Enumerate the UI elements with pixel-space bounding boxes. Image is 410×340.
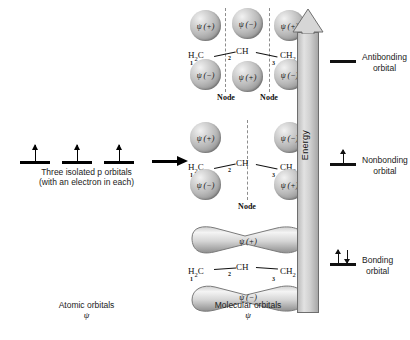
level-label-line1: Bonding	[362, 255, 393, 265]
electron-up-arrow	[338, 250, 339, 263]
skeleton-atom-2: CH	[236, 46, 249, 56]
molecular-orbitals-footer-symbol: ψ	[190, 310, 306, 320]
energy-axis-arrow: Energy	[292, 8, 324, 313]
carbon-skeleton: H2C 1 CH 2 CH2 3	[188, 262, 308, 282]
electron-up-arrow	[35, 145, 36, 161]
level-label-line1: Nonbonding	[362, 155, 408, 165]
level-line	[330, 163, 356, 166]
orbital-lobe-top-continuous: ψ (+)	[189, 224, 307, 258]
orbital-lobe-c1-bottom: ψ (−)	[190, 169, 221, 200]
nonbonding-orbital-diagram: ψ (+) ψ (−) H2C 1 CH 2 CH2 3 ψ (−) ψ (+)…	[188, 120, 308, 215]
bond-c2-c3	[256, 52, 278, 58]
atomic-orbitals-group: Three isolated p orbitals (with an elect…	[14, 138, 159, 187]
lobe-sign: ψ (−)	[232, 19, 263, 28]
atomic-orbital-levels	[14, 138, 159, 164]
energy-axis-label: Energy	[300, 105, 310, 185]
atomic-orbital-level-1	[20, 161, 50, 164]
orbital-lobe-c1-top: ψ (+)	[190, 10, 221, 41]
node-label-1: Node	[205, 93, 247, 102]
bond-c1-c2	[214, 51, 236, 57]
orbital-lobe-c1-top: ψ (+)	[190, 122, 221, 153]
bond-c1-c2	[214, 163, 236, 169]
lobe-sign: ψ (+)	[232, 72, 263, 81]
orbital-lobe-c2-bottom: ψ (+)	[232, 61, 263, 92]
skeleton-number-3: 3	[272, 60, 275, 66]
electron-up-arrow	[343, 150, 344, 163]
skeleton-number-2: 2	[228, 167, 231, 173]
lobe-sign: ψ (+)	[190, 133, 221, 142]
level-label-line2: orbital	[362, 166, 408, 177]
bond-c2-c3	[256, 164, 278, 170]
lobe-sign: ψ (+)	[189, 237, 307, 246]
level-label-line1: Antibonding	[362, 52, 407, 62]
energy-arrow-head-icon	[292, 8, 324, 34]
atomic-orbitals-footer-symbol: ψ	[34, 310, 139, 320]
lobe-sign: ψ (−)	[190, 180, 221, 189]
node-label-1: Node	[226, 202, 268, 211]
bond-c1-c2	[214, 267, 236, 270]
orbital-lobe-c2-top: ψ (−)	[232, 8, 263, 39]
bond-c2-c3	[256, 267, 278, 270]
orbital-lobe-c1-bottom: ψ (−)	[190, 59, 221, 90]
skeleton-atom-2: CH	[236, 262, 249, 272]
atomic-orbitals-footer-label: Atomic orbitals	[34, 300, 139, 310]
lobe-sign: ψ (+)	[190, 21, 221, 30]
lobe-sign: ψ (−)	[190, 70, 221, 79]
level-label-line2: orbital	[362, 266, 393, 277]
electron-down-arrow	[347, 250, 348, 263]
atomic-orbitals-caption-line2: (with an electron in each)	[14, 177, 159, 187]
electron-up-arrow	[119, 145, 120, 161]
skeleton-number-2: 2	[228, 271, 231, 277]
node-label-2: Node	[248, 93, 290, 102]
level-line	[330, 60, 356, 63]
antibonding-orbital-diagram: ψ (+) ψ (−) ψ (+) H2C 1 CH 2 CH2 3 ψ (−)…	[188, 8, 308, 108]
atomic-orbital-level-2	[62, 161, 92, 164]
skeleton-atom-2: CH	[236, 158, 249, 168]
atomic-orbital-level-3	[104, 161, 134, 164]
transformation-arrow-icon	[152, 156, 188, 167]
level-line	[330, 263, 356, 266]
atomic-orbitals-caption-line1: Three isolated p orbitals	[14, 167, 159, 177]
skeleton-number-2: 2	[228, 55, 231, 61]
level-label-line2: orbital	[362, 63, 407, 74]
molecular-orbitals-footer-label: Molecular orbitals	[190, 300, 306, 310]
electron-up-arrow	[77, 145, 78, 161]
